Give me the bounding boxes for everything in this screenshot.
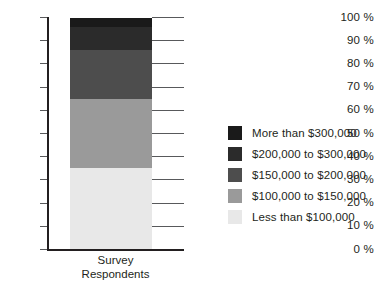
y-axis-line xyxy=(47,17,49,250)
y-gridline xyxy=(152,17,184,18)
y-gridline xyxy=(152,226,184,227)
legend-item[interactable]: Less than $100,000 xyxy=(228,206,366,227)
legend-label: Less than $100,000 xyxy=(252,211,355,223)
y-gridline xyxy=(152,179,184,180)
y-gridline xyxy=(152,156,184,157)
bar-segment[interactable] xyxy=(70,99,152,169)
y-axis-tick-label: 90 % xyxy=(336,35,374,47)
y-axis-tick-label: 0 % xyxy=(336,244,374,256)
stacked-bar-chart: 0 %10 %20 %30 %40 %50 %60 %70 %80 %90 %1… xyxy=(0,0,374,287)
y-gridline xyxy=(152,110,184,111)
x-axis-line xyxy=(47,249,184,251)
y-gridline xyxy=(152,87,184,88)
y-axis-tick-label: 100 % xyxy=(336,12,374,24)
legend-label: $150,000 to $200,000 xyxy=(252,169,366,181)
legend-color-swatch xyxy=(228,126,242,140)
legend-label: $100,000 to $150,000 xyxy=(252,190,366,202)
y-axis-tick-label: 70 % xyxy=(336,81,374,93)
bar-segment[interactable] xyxy=(70,18,152,27)
y-gridline xyxy=(152,203,184,204)
legend-color-swatch xyxy=(228,168,242,182)
legend-color-swatch xyxy=(228,210,242,224)
y-gridline xyxy=(152,63,184,64)
legend-label: $200,000 to $300,000 xyxy=(252,148,366,160)
y-axis-tick-label: 80 % xyxy=(336,58,374,70)
x-axis-label-line1: Survey xyxy=(47,254,184,268)
legend-item[interactable]: More than $300,000 xyxy=(228,122,366,143)
legend-item[interactable]: $150,000 to $200,000 xyxy=(228,164,366,185)
bar-segment[interactable] xyxy=(70,50,152,99)
x-axis-label-line2: Respondents xyxy=(47,268,184,282)
legend-item[interactable]: $100,000 to $150,000 xyxy=(228,185,366,206)
bar-segment[interactable] xyxy=(70,27,152,50)
chart-legend: More than $300,000$200,000 to $300,000$1… xyxy=(228,122,366,227)
legend-item[interactable]: $200,000 to $300,000 xyxy=(228,143,366,164)
x-axis-label: Survey Respondents xyxy=(47,254,184,281)
y-gridline xyxy=(152,40,184,41)
y-axis-tick-label: 60 % xyxy=(336,104,374,116)
y-gridline xyxy=(152,133,184,134)
legend-label: More than $300,000 xyxy=(252,127,357,139)
legend-color-swatch xyxy=(228,189,242,203)
legend-color-swatch xyxy=(228,147,242,161)
bar-segment[interactable] xyxy=(70,168,152,249)
